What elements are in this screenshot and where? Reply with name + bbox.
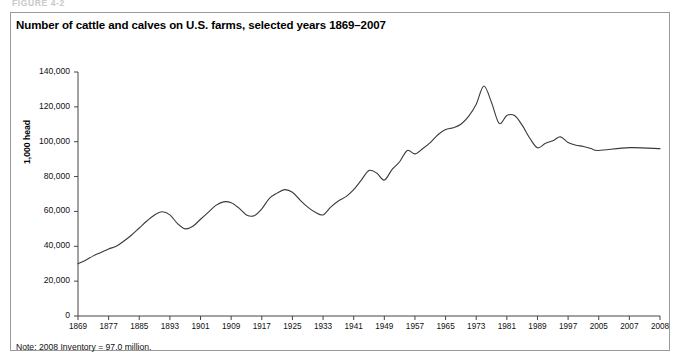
chart-note: Note: 2008 Inventory = 97.0 million. <box>16 342 151 352</box>
axes-group <box>74 72 660 320</box>
figure-root: FIGURE 4-2 Number of cattle and calves o… <box>0 0 681 363</box>
chart-plot-area <box>0 0 681 363</box>
x-axis-ticks <box>78 316 660 320</box>
data-series-line <box>78 86 660 264</box>
y-axis-ticks <box>74 72 78 316</box>
